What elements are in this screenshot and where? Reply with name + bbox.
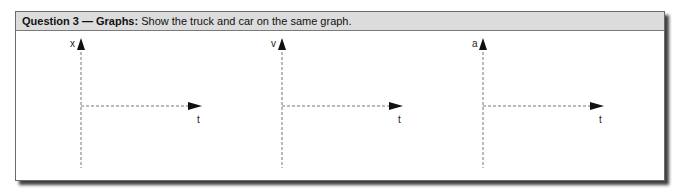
- y-axis-label: v: [271, 38, 276, 49]
- x-axis-arrow-icon: [188, 102, 202, 110]
- y-axis-arrow-icon: [77, 38, 85, 50]
- x-axis-arrow-icon: [389, 102, 403, 110]
- y-axis-label: x: [70, 38, 75, 49]
- x-axis-label: t: [398, 114, 401, 125]
- x-axis-arrow-icon: [590, 102, 604, 110]
- acceleration-time-graph: a t: [468, 36, 618, 176]
- y-axis-label: a: [472, 38, 478, 49]
- question-label: Question 3 — Graphs:: [22, 15, 138, 27]
- y-axis-arrow-icon: [479, 38, 487, 50]
- y-axis-arrow-icon: [278, 38, 286, 50]
- velocity-time-graph: v t: [267, 36, 417, 176]
- position-time-graph: x t: [66, 36, 216, 176]
- question-text: Show the truck and car on the same graph…: [138, 15, 351, 27]
- question-header: Question 3 — Graphs: Show the truck and …: [16, 12, 664, 31]
- question-panel: Question 3 — Graphs: Show the truck and …: [15, 11, 665, 181]
- x-axis-label: t: [197, 114, 200, 125]
- x-axis-label: t: [599, 114, 602, 125]
